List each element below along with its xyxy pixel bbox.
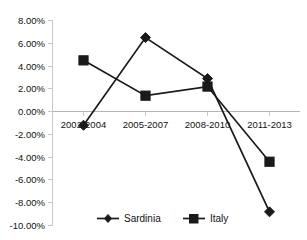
legend-label-sardinia: Sardinia [124, 213, 161, 224]
y-tick-label: 2.00% [18, 83, 45, 94]
y-tick-label: 6.00% [18, 38, 45, 49]
x-tick-label: 2011-2013 [247, 119, 292, 130]
line-chart: 8.00% 6.00% 4.00% 2.00% 0.00% -2.00% -4.… [0, 0, 307, 240]
y-tick-label: -2.00% [15, 129, 46, 140]
y-tick-label: -6.00% [15, 174, 46, 185]
y-tick-label: -10.00% [10, 220, 46, 231]
y-tick-label: 8.00% [18, 15, 45, 26]
y-tick-label: 0.00% [18, 106, 45, 117]
square-marker-icon [190, 215, 199, 224]
y-tick-label: -8.00% [15, 197, 46, 208]
x-tick-label: 2008-2010 [185, 119, 230, 130]
square-marker-icon [141, 91, 150, 100]
y-tick-label: -4.00% [15, 152, 46, 163]
legend-label-italy: Italy [210, 213, 228, 224]
x-tick-label: 2005-2007 [123, 119, 168, 130]
square-marker-icon [79, 56, 88, 65]
square-marker-icon [203, 82, 212, 91]
chart-canvas: 8.00% 6.00% 4.00% 2.00% 0.00% -2.00% -4.… [0, 0, 307, 240]
y-tick-label: 4.00% [18, 61, 45, 72]
square-marker-icon [265, 157, 274, 166]
